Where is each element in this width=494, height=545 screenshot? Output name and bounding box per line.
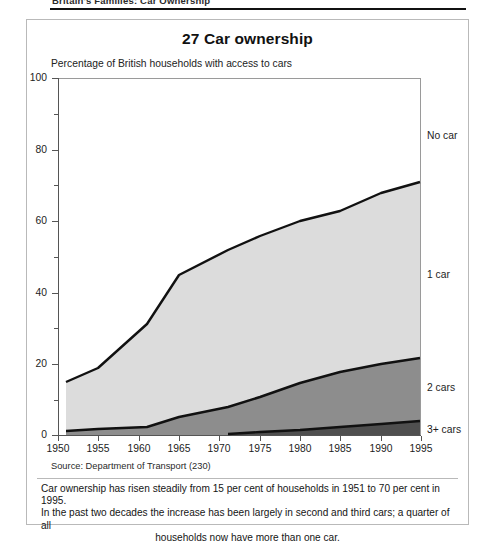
series-label-2-cars: 2 cars — [427, 382, 455, 393]
caption-divider — [37, 478, 458, 479]
figure-box: 27 Car ownership Percentage of British h… — [26, 19, 469, 525]
series-label-no-car: No car — [427, 130, 457, 141]
caption-line-2: In the past two decades the increase has… — [41, 507, 454, 531]
running-head-rule — [50, 8, 466, 10]
running-head-text: Britain's Families: Car Ownership — [52, 0, 210, 6]
stacked-area-chart — [27, 20, 468, 524]
figure-caption: Car ownership has risen steadily from 15… — [41, 483, 454, 544]
series-label-3-plus-cars: 3+ cars — [427, 424, 461, 435]
page-root: Britain's Families: Car Ownership 27 Car… — [0, 0, 494, 545]
source-note: Source: Department of Transport (230) — [51, 461, 211, 471]
caption-line-3: households now have more than one car. — [41, 532, 454, 544]
series-label-1-car: 1 car — [427, 269, 450, 280]
caption-line-1: Car ownership has risen steadily from 15… — [41, 483, 454, 507]
